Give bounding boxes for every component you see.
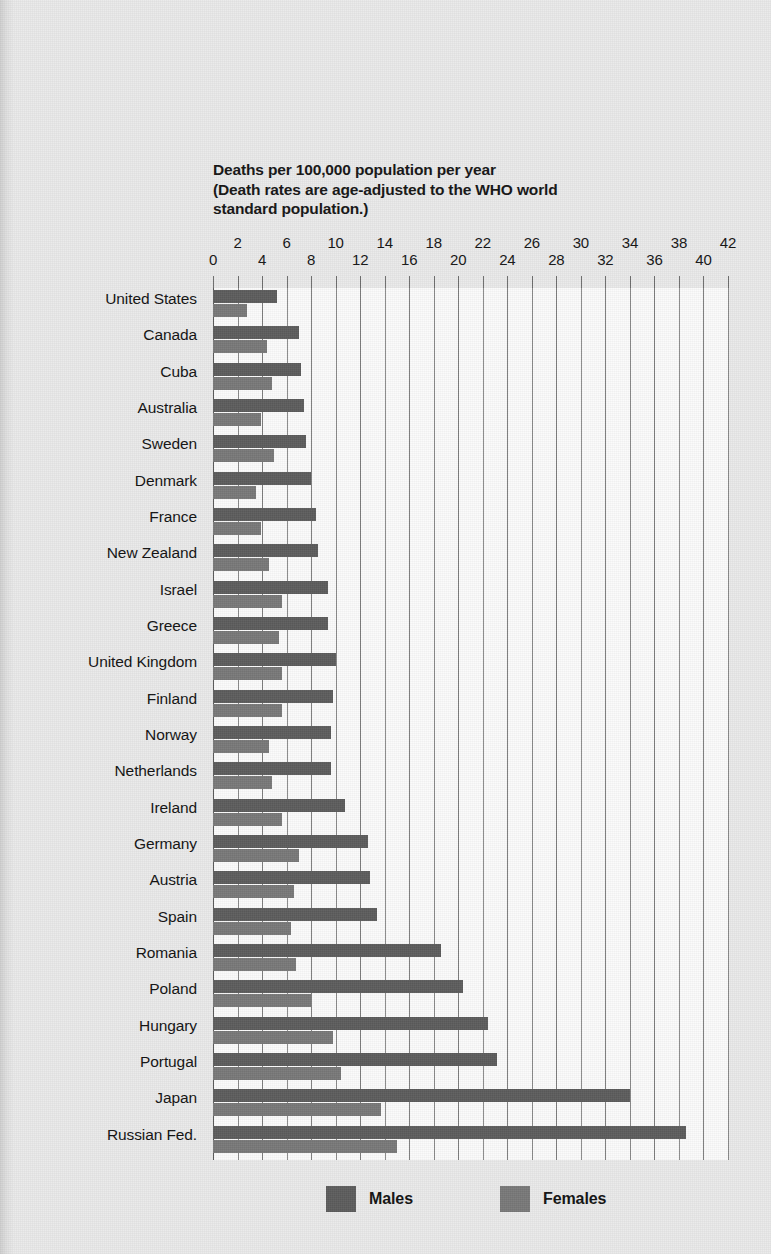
- x-tick-label-22: 22: [475, 234, 491, 251]
- bar-females-netherlands: [213, 776, 272, 789]
- x-tick-label-30: 30: [573, 234, 589, 251]
- legend-swatch-females: [500, 1186, 530, 1212]
- category-label-new-zealand: New Zealand: [7, 544, 197, 562]
- bar-row: [213, 651, 728, 687]
- bar-row: [213, 397, 728, 433]
- x-tick-label-2: 2: [233, 234, 241, 251]
- bar-males-canada: [213, 326, 299, 339]
- bar-males-israel: [213, 581, 328, 594]
- bar-row: [213, 470, 728, 506]
- bar-males-greece: [213, 617, 328, 630]
- bar-row: [213, 869, 728, 905]
- x-axis-tick-labels: 024681012141618202224262830323436384042: [0, 234, 771, 276]
- category-label-russian-fed: Russian Fed.: [7, 1126, 197, 1144]
- bar-males-australia: [213, 399, 304, 412]
- x-tick-label-16: 16: [401, 251, 417, 268]
- bar-females-canada: [213, 340, 267, 353]
- legend-item-males: Males: [326, 1186, 413, 1212]
- x-tick-label-28: 28: [548, 251, 564, 268]
- category-label-portugal: Portugal: [7, 1053, 197, 1071]
- bar-males-spain: [213, 908, 377, 921]
- bar-males-austria: [213, 871, 370, 884]
- x-tick-mark-22: [483, 276, 484, 288]
- legend-label-females: Females: [543, 1190, 606, 1208]
- category-label-greece: Greece: [7, 617, 197, 635]
- x-tick-label-18: 18: [426, 234, 442, 251]
- x-tick-label-14: 14: [377, 234, 393, 251]
- category-label-spain: Spain: [7, 908, 197, 926]
- gridline-42: [728, 288, 729, 1160]
- category-label-cuba: Cuba: [7, 363, 197, 381]
- x-tick-label-42: 42: [720, 234, 736, 251]
- bar-row: [213, 1087, 728, 1123]
- category-label-finland: Finland: [7, 690, 197, 708]
- bar-males-poland: [213, 980, 463, 993]
- bar-row: [213, 288, 728, 324]
- category-label-hungary: Hungary: [7, 1017, 197, 1035]
- bar-females-france: [213, 522, 261, 535]
- bar-females-united-kingdom: [213, 667, 282, 680]
- x-tick-mark-20: [458, 276, 459, 288]
- category-label-germany: Germany: [7, 835, 197, 853]
- bar-row: [213, 688, 728, 724]
- category-label-romania: Romania: [7, 944, 197, 962]
- category-label-united-states: United States: [7, 290, 197, 308]
- legend-item-females: Females: [500, 1186, 606, 1212]
- chart-title-line-3: standard population.): [213, 199, 733, 219]
- chart-title-line-1: Deaths per 100,000 population per year: [213, 160, 733, 180]
- bar-males-norway: [213, 726, 331, 739]
- chart-legend: Males Females: [0, 1186, 771, 1226]
- y-axis-category-labels: United StatesCanadaCubaAustraliaSwedenDe…: [0, 288, 205, 1160]
- x-tick-label-4: 4: [258, 251, 266, 268]
- bar-males-germany: [213, 835, 368, 848]
- x-tick-label-38: 38: [671, 234, 687, 251]
- x-tick-mark-0: [213, 276, 214, 288]
- x-tick-mark-12: [360, 276, 361, 288]
- x-tick-mark-38: [679, 276, 680, 288]
- bar-males-russian-fed: [213, 1126, 686, 1139]
- bar-females-united-states: [213, 304, 247, 317]
- legend-swatch-males: [326, 1186, 356, 1212]
- x-tick-label-0: 0: [209, 251, 217, 268]
- x-tick-mark-14: [385, 276, 386, 288]
- bar-row: [213, 797, 728, 833]
- bar-row: [213, 433, 728, 469]
- x-tick-label-36: 36: [646, 251, 662, 268]
- bar-row: [213, 942, 728, 978]
- bar-females-poland: [213, 994, 311, 1007]
- bar-row: [213, 978, 728, 1014]
- x-tick-mark-42: [728, 276, 729, 288]
- bar-row: [213, 1051, 728, 1087]
- x-tick-mark-36: [654, 276, 655, 288]
- x-tick-mark-6: [287, 276, 288, 288]
- bar-males-new-zealand: [213, 544, 318, 557]
- category-label-japan: Japan: [7, 1089, 197, 1107]
- bar-females-ireland: [213, 813, 282, 826]
- bar-row: [213, 760, 728, 796]
- x-tick-mark-8: [311, 276, 312, 288]
- category-label-poland: Poland: [7, 980, 197, 998]
- bar-females-portugal: [213, 1067, 341, 1080]
- bar-males-sweden: [213, 435, 306, 448]
- bar-females-cuba: [213, 377, 272, 390]
- bar-males-japan: [213, 1089, 630, 1102]
- chart-title: Deaths per 100,000 population per year (…: [213, 160, 733, 219]
- bar-males-ireland: [213, 799, 345, 812]
- x-tick-mark-18: [434, 276, 435, 288]
- legend-label-males: Males: [369, 1190, 413, 1208]
- bar-females-finland: [213, 704, 282, 717]
- category-label-ireland: Ireland: [7, 799, 197, 817]
- category-label-denmark: Denmark: [7, 472, 197, 490]
- bar-females-israel: [213, 595, 282, 608]
- x-tick-label-8: 8: [307, 251, 315, 268]
- x-tick-mark-16: [409, 276, 410, 288]
- bar-row: [213, 579, 728, 615]
- category-label-austria: Austria: [7, 871, 197, 889]
- bar-females-greece: [213, 631, 279, 644]
- bar-row: [213, 906, 728, 942]
- bar-females-denmark: [213, 486, 256, 499]
- category-label-norway: Norway: [7, 726, 197, 744]
- x-tick-mark-40: [703, 276, 704, 288]
- bar-females-japan: [213, 1103, 381, 1116]
- category-label-netherlands: Netherlands: [7, 762, 197, 780]
